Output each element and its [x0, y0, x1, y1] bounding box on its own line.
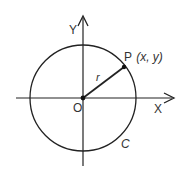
point-p	[122, 65, 126, 69]
y-axis-label: Y	[69, 23, 77, 37]
radius-label: r	[96, 71, 101, 83]
point-p-name: P	[124, 50, 132, 64]
origin-label: O	[73, 101, 82, 115]
coordinate-circle-diagram: Y X O P (x, y) r C	[0, 0, 186, 176]
circle-label: C	[121, 137, 130, 151]
x-axis-label: X	[154, 102, 162, 116]
origin-point	[81, 96, 86, 101]
point-p-coords: (x, y)	[136, 50, 163, 64]
point-p-label: P (x, y)	[124, 50, 163, 64]
radius-line	[83, 67, 124, 98]
